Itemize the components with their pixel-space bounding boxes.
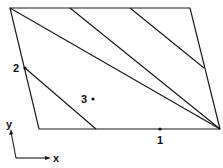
point-2-label: 2 [13,62,19,74]
y-axis-line [11,132,16,158]
parallelogram-diagram: 1 2 3 y x [0,0,223,168]
point-3-marker [91,97,94,100]
stripe-line-4 [130,8,204,68]
x-arrow-icon [45,156,51,160]
point-1-marker [158,127,161,130]
point-2-marker [23,66,26,69]
axes-indicator: y x [6,118,60,164]
point-3-label: 3 [81,93,87,105]
stripe-line-2 [10,8,220,129]
point-1-label: 1 [157,134,163,146]
stripe-line-3 [70,8,220,129]
y-axis-label: y [6,118,13,130]
x-axis-label: x [53,152,60,164]
